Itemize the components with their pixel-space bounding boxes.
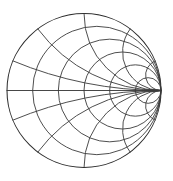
smith-chart-canvas <box>0 0 173 181</box>
smith-chart-figure <box>0 0 173 181</box>
